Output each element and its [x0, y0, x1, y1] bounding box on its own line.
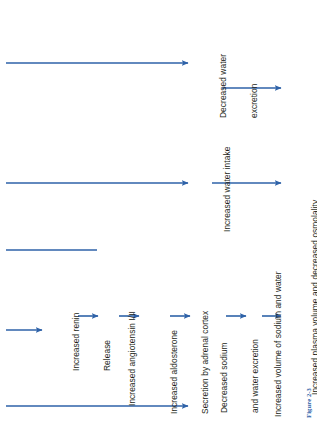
node-increased-plasma-volume-osmolality: Increased plasma volume and decreased os…: [290, 200, 317, 395]
node-line-1: Increased volume of sodium and water: [273, 271, 283, 417]
node-line-2: excretion: [249, 54, 259, 118]
node-line-1: Decreased sodium: [219, 339, 229, 413]
figure-caption: Figure 2-3: [305, 388, 312, 418]
node-increased-water-intake: Increased water intake: [202, 147, 253, 232]
figure-canvas: Decreased water excretion Increased wate…: [0, 0, 317, 421]
node-decreased-water-excretion: Decreased water excretion: [197, 54, 280, 118]
node-line-1: Increased plasma volume and decreased os…: [310, 200, 317, 395]
node-line-1: Increased aldosterone: [169, 311, 179, 414]
node-line-1: Increased renin: [71, 313, 81, 371]
node-line-1: Increased water intake: [222, 147, 232, 232]
node-line-1: Increased angiotensin I/II: [127, 311, 137, 406]
node-line-1: Decreased water: [218, 54, 228, 118]
